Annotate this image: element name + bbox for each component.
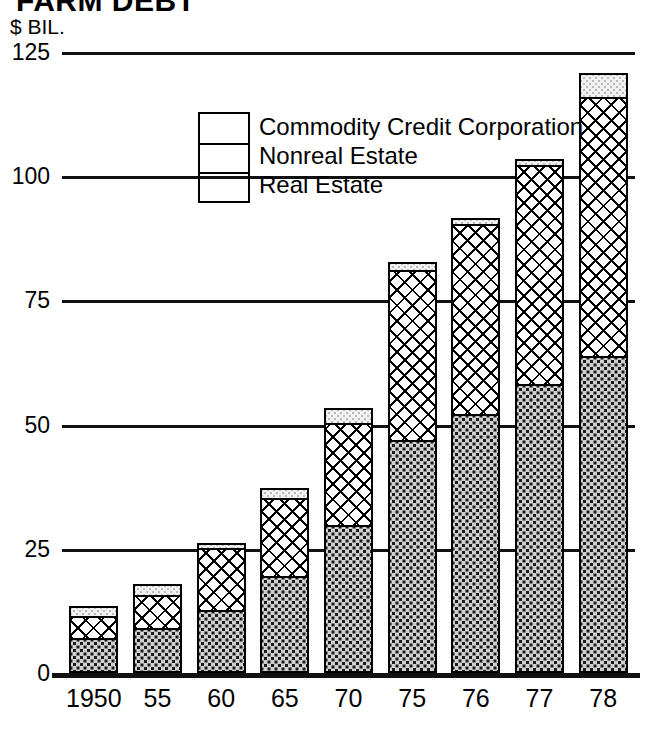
bar-segment-commodity-credit-corporation-78 [581,75,626,97]
bar-78[interactable] [579,73,628,673]
y-axis-unit-label: $ BIL. [10,16,65,37]
bar-segment-real-estate-77 [517,384,562,671]
bar-segment-nonreal-estate-78 [581,97,626,355]
bar-55[interactable] [133,584,182,673]
legend-swatch-nonreal-estate [200,143,248,172]
bar-77[interactable] [515,159,564,673]
y-axis-tick-labels: 125 100 75 50 25 0 [0,52,56,673]
bar-segment-real-estate-60 [199,610,244,671]
bar-segment-real-estate-55 [135,628,180,671]
bar-segment-nonreal-estate-65 [262,498,307,576]
y-tick-100: 100 [12,165,50,188]
plot-area: Commodity Credit Corporation Nonreal Est… [62,52,635,673]
bar-75[interactable] [388,262,437,673]
x-axis-baseline [52,673,640,678]
bar-1950[interactable] [69,606,118,673]
bar-segment-real-estate-70 [326,525,371,671]
x-tick-78: 78 [589,686,617,711]
bar-segment-commodity-credit-corporation-65 [262,490,307,498]
legend-swatch-real-estate [200,172,248,201]
legend-swatch-commodity-credit-corporation [200,114,248,143]
bar-segment-nonreal-estate-60 [199,548,244,610]
legend-swatch-stack [198,112,250,203]
bar-segment-real-estate-78 [581,356,626,671]
x-tick-60: 60 [207,686,235,711]
bar-segment-nonreal-estate-55 [135,595,180,628]
bar-segment-real-estate-76 [453,414,498,671]
bar-segment-real-estate-1950 [71,638,116,671]
legend-label-commodity-credit-corporation: Commodity Credit Corporation [259,112,583,141]
y-tick-0: 0 [37,662,50,685]
bar-segment-commodity-credit-corporation-1950 [71,608,116,616]
y-tick-75: 75 [24,289,50,312]
bar-segment-real-estate-65 [262,576,307,671]
y-tick-25: 25 [24,538,50,561]
x-tick-70: 70 [335,686,363,711]
legend-label-nonreal-estate: Nonreal Estate [259,141,583,170]
bar-segment-commodity-credit-corporation-55 [135,586,180,595]
y-tick-125: 125 [12,41,50,64]
legend-label-stack: Commodity Credit Corporation Nonreal Est… [259,112,583,199]
bar-70[interactable] [324,408,373,673]
bar-segment-nonreal-estate-1950 [71,616,116,638]
x-axis-tick-labels: 19505560657075767778 [62,686,635,722]
legend-label-real-estate: Real Estate [259,170,583,199]
bar-segment-nonreal-estate-75 [390,270,435,440]
x-tick-77: 77 [526,686,554,711]
legend: Commodity Credit Corporation Nonreal Est… [198,112,583,203]
bar-segment-real-estate-75 [390,440,435,671]
bar-segment-nonreal-estate-70 [326,423,371,525]
x-tick-1950: 1950 [66,686,122,711]
page-title: FARM DEBT [16,0,196,16]
bar-76[interactable] [451,218,500,673]
bar-segment-commodity-credit-corporation-70 [326,410,371,423]
y-tick-50: 50 [24,414,50,437]
x-tick-55: 55 [144,686,172,711]
bar-60[interactable] [197,543,246,673]
x-tick-76: 76 [462,686,490,711]
x-tick-65: 65 [271,686,299,711]
bar-segment-nonreal-estate-76 [453,224,498,414]
x-tick-75: 75 [398,686,426,711]
bar-65[interactable] [260,488,309,673]
